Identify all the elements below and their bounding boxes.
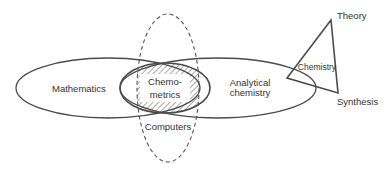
computers-label: Computers <box>145 121 192 132</box>
chemometrics-venn-diagram: Mathematics Chemo- metrics Analytical ch… <box>0 0 385 174</box>
chemometrics-label-line2: metrics <box>150 89 181 100</box>
mathematics-label: Mathematics <box>52 83 106 94</box>
theory-label: Theory <box>337 10 367 21</box>
chemometrics-label-line1: Chemo- <box>148 76 182 87</box>
chemistry-label: Chemistry <box>298 62 337 72</box>
synthesis-label: Synthesis <box>337 96 378 107</box>
chemistry-triangle <box>287 20 338 93</box>
analytical-chemistry-label-line2: chemistry <box>230 87 271 98</box>
